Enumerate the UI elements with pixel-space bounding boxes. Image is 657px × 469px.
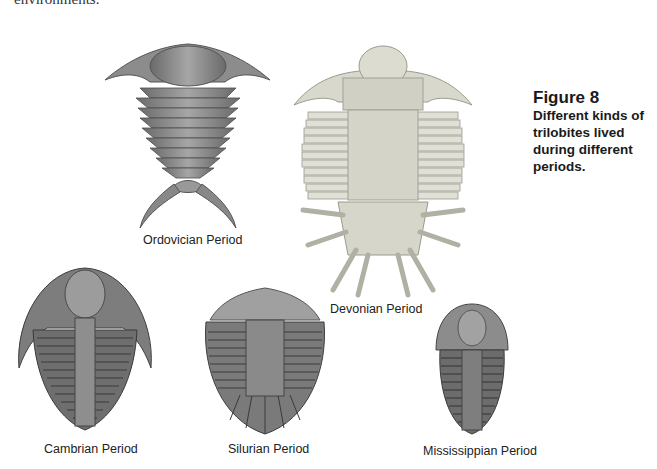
devonian-trilobite-illustration xyxy=(288,40,478,298)
trilobite-mississippian-icon xyxy=(432,300,512,440)
cut-off-body-text: environments. xyxy=(14,0,99,8)
cambrian-trilobite-illustration xyxy=(15,258,155,433)
trilobite-silurian-icon xyxy=(200,280,330,436)
silurian-trilobite-illustration xyxy=(200,280,330,436)
ordovician-trilobite-illustration xyxy=(100,38,275,228)
silurian-label: Silurian Period xyxy=(228,442,309,456)
figure-number: Figure 8 xyxy=(533,88,657,107)
devonian-label: Devonian Period xyxy=(330,302,422,316)
figure-caption: Figure 8 Different kinds of trilobites l… xyxy=(533,88,657,175)
trilobite-spiky-icon xyxy=(288,40,478,298)
cambrian-label: Cambrian Period xyxy=(44,442,138,456)
mississippian-trilobite-illustration xyxy=(432,300,512,440)
figure-caption-text: Different kinds of trilobites lived duri… xyxy=(533,107,657,175)
trilobite-spined-icon xyxy=(100,38,275,228)
trilobite-cambrian-icon xyxy=(15,258,155,433)
mississippian-label: Mississippian Period xyxy=(423,444,537,458)
ordovician-label: Ordovician Period xyxy=(143,233,242,247)
